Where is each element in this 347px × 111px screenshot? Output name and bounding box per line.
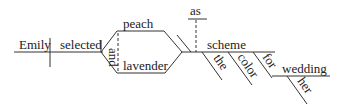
word-preposition: for <box>260 50 281 72</box>
sentence-diagram: Emily selected peach lavender and as sch… <box>0 0 347 111</box>
word-complement: scheme <box>207 37 246 52</box>
word-connector: as <box>190 3 201 18</box>
word-mod-color: color <box>235 50 263 81</box>
complement-slash <box>177 35 191 52</box>
word-prep-object: wedding <box>282 61 327 76</box>
diagram-canvas: Emily selected peach lavender and as sch… <box>0 0 347 111</box>
word-conjunction: and <box>106 48 121 67</box>
word-mod-her: her <box>295 74 317 97</box>
word-subject: Emily <box>19 37 51 52</box>
word-mod-the: the <box>211 51 233 73</box>
word-verb: selected <box>60 37 102 52</box>
fork-upper-right <box>164 31 182 52</box>
word-object-1: peach <box>123 16 154 31</box>
word-object-2: lavender <box>123 58 168 73</box>
